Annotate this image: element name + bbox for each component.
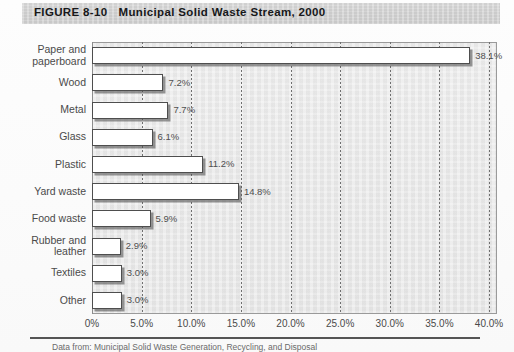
y-axis-category-labels: Paper andpaperboardWoodMetalGlassPlastic… — [0, 42, 86, 314]
x-tick-35.0%: 35.0% — [425, 318, 453, 329]
x-tick-0%: 0% — [85, 318, 99, 329]
x-tick-25.0%: 25.0% — [326, 318, 354, 329]
figure-header-band: FIGURE 8-10Municipal Solid Waste Stream,… — [22, 3, 500, 24]
bars-layer: 38.1%7.2%7.7%6.1%11.2%14.8%5.9%2.9%3.0%3… — [92, 42, 497, 314]
y-axis-label-rubber-and-leather: Rubber andleather — [0, 235, 86, 258]
bar-chart: Paper andpaperboardWoodMetalGlassPlastic… — [0, 30, 514, 330]
bar-other — [92, 292, 122, 309]
y-axis-label-plastic: Plastic — [0, 159, 86, 171]
y-axis-label-textiles: Textiles — [0, 267, 86, 279]
bar-value-label-metal: 7.7% — [173, 105, 195, 115]
bar-value-label-yard-waste: 14.8% — [244, 187, 271, 197]
x-tick-5.0%: 5.0% — [130, 318, 153, 329]
bar-glass — [92, 129, 153, 146]
bar-textiles — [92, 265, 122, 282]
bar-food-waste — [92, 210, 151, 227]
y-axis-label-food-waste: Food waste — [0, 213, 86, 225]
x-tick-30.0%: 30.0% — [376, 318, 404, 329]
bar-plastic — [92, 156, 203, 173]
figure-title: Municipal Solid Waste Stream, 2000 — [119, 6, 326, 18]
bar-paper-and-paperboard — [92, 47, 470, 64]
bar-value-label-plastic: 11.2% — [208, 159, 234, 169]
x-tick-15.0%: 15.0% — [227, 318, 255, 329]
x-axis-tick-labels: 0%5.0%10.0%15.0%20.0%25.0%30.0%35.0%40.0… — [0, 318, 514, 336]
bar-value-label-paper-and-paperboard: 38.1% — [475, 51, 502, 61]
x-tick-10.0%: 10.0% — [177, 318, 205, 329]
y-axis-label-metal: Metal — [0, 104, 86, 116]
bottom-divider — [30, 337, 480, 339]
y-axis-label-other: Other — [0, 295, 86, 307]
bar-value-label-wood: 7.2% — [168, 78, 190, 88]
y-axis-label-yard-waste: Yard waste — [0, 186, 86, 198]
x-tick-20.0%: 20.0% — [276, 318, 304, 329]
bar-wood — [92, 74, 163, 91]
bar-yard-waste — [92, 183, 239, 200]
figure-number: FIGURE 8-10 — [34, 6, 108, 18]
bar-value-label-food-waste: 5.9% — [156, 214, 178, 224]
y-axis-label-paper-and-paperboard: Paper andpaperboard — [0, 44, 86, 67]
bar-metal — [92, 102, 168, 119]
bar-value-label-textiles: 3.0% — [127, 268, 149, 278]
bar-rubber-and-leather — [92, 238, 121, 255]
bar-value-label-rubber-and-leather: 2.9% — [126, 241, 148, 251]
x-tick-40.0%: 40.0% — [475, 318, 503, 329]
figure-caption: FIGURE 8-10Municipal Solid Waste Stream,… — [34, 6, 326, 18]
source-note: Data from: Municipal Solid Waste Generat… — [52, 343, 482, 352]
y-axis-label-glass: Glass — [0, 131, 86, 143]
y-axis-label-wood: Wood — [0, 77, 86, 89]
bar-value-label-glass: 6.1% — [158, 132, 180, 142]
bar-value-label-other: 3.0% — [127, 295, 149, 305]
